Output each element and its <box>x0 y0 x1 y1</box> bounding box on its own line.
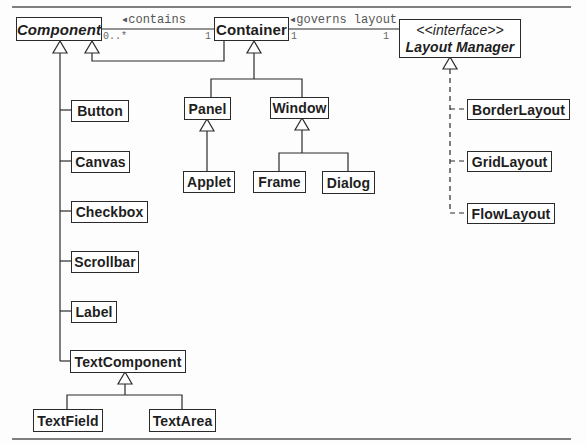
interface-stereotype: <<interface>> <box>416 22 504 39</box>
contains-multiplicity-container: 1 <box>205 32 211 42</box>
governs-layout-label: ◂governs layout <box>289 14 397 26</box>
class-border-layout: BorderLayout <box>467 99 570 120</box>
generalization-arrow-component-right <box>85 41 99 53</box>
generalization-arrow-component-left <box>53 41 67 53</box>
class-button: Button <box>71 100 129 122</box>
class-dialog: Dialog <box>322 171 375 194</box>
class-applet: Applet <box>183 171 235 193</box>
uml-diagram: ◂contains 0..* 1 ◂governs layout 1 1 Com… <box>0 0 587 445</box>
realization-arrow-layout-manager <box>443 57 457 69</box>
governs-multiplicity-layout-manager: 1 <box>383 32 389 42</box>
class-container: Container <box>214 17 289 41</box>
contains-multiplicity-component: 0..* <box>103 32 127 42</box>
class-canvas: Canvas <box>71 151 130 173</box>
class-checkbox: Checkbox <box>71 201 148 223</box>
class-text-field: TextField <box>33 409 103 432</box>
class-flow-layout: FlowLayout <box>467 203 555 224</box>
class-component: Component <box>16 17 102 41</box>
class-frame: Frame <box>253 171 306 193</box>
contains-label: ◂contains <box>121 14 186 26</box>
generalization-arrow-textcomponent <box>118 372 132 384</box>
class-label: Label <box>71 301 117 323</box>
class-window: Window <box>270 97 329 119</box>
class-scrollbar: Scrollbar <box>71 251 139 273</box>
interface-name: Layout Manager <box>406 39 515 56</box>
container-to-component-path <box>92 41 224 61</box>
class-text-component: TextComponent <box>70 350 186 373</box>
generalization-arrow-panel <box>200 119 214 131</box>
class-panel: Panel <box>184 97 231 120</box>
class-grid-layout: GridLayout <box>467 151 552 172</box>
class-text-area: TextArea <box>149 409 216 432</box>
generalization-arrow-container <box>247 41 261 53</box>
interface-layout-manager: <<interface>> Layout Manager <box>399 19 521 58</box>
governs-multiplicity-container: 1 <box>291 32 297 42</box>
generalization-arrow-window <box>295 118 309 130</box>
